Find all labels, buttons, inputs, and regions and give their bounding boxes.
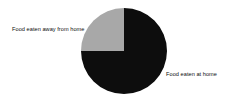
pie-slice-away-from-home	[81, 8, 124, 51]
pie-slices	[81, 8, 167, 94]
pie-chart-graphic	[0, 0, 230, 101]
pie-label-away-from-home: Food eaten away from home	[12, 26, 84, 32]
pie-chart-figure: Food eaten away from home Food eaten at …	[0, 0, 230, 101]
pie-label-at-home: Food eaten at home	[166, 71, 217, 77]
